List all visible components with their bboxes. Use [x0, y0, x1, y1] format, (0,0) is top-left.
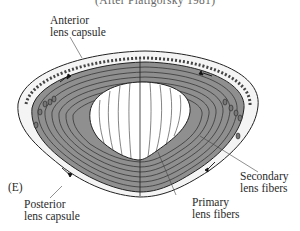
label-line: Anterior [50, 14, 106, 26]
label-primary-fibers: Primary lens fibers [192, 196, 240, 220]
label-line: Primary [192, 196, 240, 208]
label-posterior-capsule: Posterior lens capsule [24, 198, 80, 222]
label-line: lens fibers [192, 208, 240, 220]
panel-letter: (E) [8, 181, 23, 193]
label-line: lens capsule [50, 26, 106, 38]
label-line: Secondary [240, 170, 289, 182]
label-line: lens capsule [24, 210, 80, 222]
label-secondary-fibers: Secondary lens fibers [240, 170, 289, 194]
label-line: Posterior [24, 198, 80, 210]
label-line: lens fibers [240, 182, 289, 194]
label-anterior-capsule: Anterior lens capsule [50, 14, 106, 38]
lens-diagram [0, 0, 300, 231]
